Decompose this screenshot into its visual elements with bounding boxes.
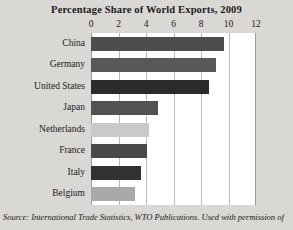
source-publication-title: International Trade Statistics [31, 212, 130, 222]
category-label: France [59, 145, 85, 156]
category-label: Germany [50, 59, 85, 70]
bar-row [91, 98, 256, 120]
bar-row [91, 33, 256, 55]
bar-row [91, 162, 256, 184]
x-tick-label: 12 [251, 19, 261, 30]
x-tick-label: 8 [199, 19, 204, 30]
bar [91, 37, 224, 51]
x-axis-tick-labels: 024681012 [91, 19, 256, 31]
category-label: United States [34, 81, 85, 92]
bar [91, 144, 147, 158]
x-tick-label: 10 [224, 19, 234, 30]
source-prefix: Source: [3, 212, 31, 222]
bar [91, 58, 216, 72]
bar [91, 80, 209, 94]
bar-row [91, 141, 256, 163]
chart-title: Percentage Share of World Exports, 2009 [0, 4, 293, 15]
bar [91, 123, 149, 137]
bar-row [91, 184, 256, 206]
category-label: China [62, 38, 85, 49]
bar-row [91, 119, 256, 141]
category-label: Italy [68, 167, 85, 178]
category-label: Japan [63, 102, 85, 113]
source-note: Source: International Trade Statistics, … [3, 212, 291, 222]
source-suffix: , WTO Publications. Used with permission… [130, 212, 283, 222]
chart-figure: Percentage Share of World Exports, 2009 … [0, 0, 293, 230]
plot-area [91, 33, 256, 205]
x-tick-label: 6 [171, 19, 176, 30]
category-label: Belgium [52, 188, 85, 199]
bar-row [91, 55, 256, 77]
bar [91, 187, 135, 201]
x-tick-label: 0 [89, 19, 94, 30]
x-tick-label: 4 [144, 19, 149, 30]
category-label: Netherlands [39, 124, 85, 135]
bar [91, 166, 141, 180]
category-axis-labels: ChinaGermanyUnited StatesJapanNetherland… [0, 33, 88, 205]
bars-group [91, 33, 256, 205]
x-tick-label: 2 [116, 19, 121, 30]
bar-row [91, 76, 256, 98]
bar [91, 101, 158, 115]
